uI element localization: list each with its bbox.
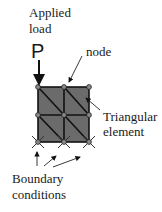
node	[36, 85, 41, 90]
node	[87, 113, 92, 118]
node	[62, 113, 67, 118]
node	[87, 85, 92, 90]
node	[36, 113, 41, 118]
node	[87, 140, 92, 145]
boundary-arrow	[44, 156, 56, 166]
node	[62, 85, 67, 90]
boundary-pointers	[37, 152, 80, 167]
node	[62, 140, 67, 145]
fem-mesh-diagram	[0, 0, 162, 212]
node-pointer-arrow	[69, 56, 82, 82]
boundary-arrow	[53, 157, 80, 167]
node	[36, 140, 41, 145]
